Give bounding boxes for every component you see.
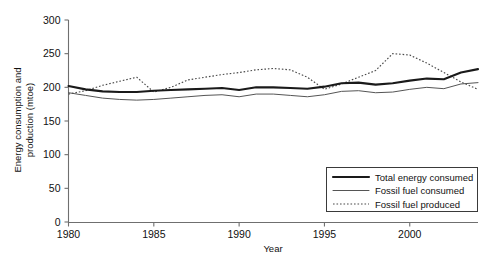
legend-item-label: Fossil fuel produced [375,199,460,210]
chart-container: 050100150200250300 19801985199019952000 … [0,0,482,266]
y-tick-label: 50 [49,182,61,194]
x-tick-label: 1990 [227,228,251,240]
y-axis-title-line-1: Energy consumption and [12,67,23,172]
y-tick-label: 250 [43,47,61,59]
y-axis-title-line-2: production (mtoe) [24,83,35,157]
legend-item-label: Total energy consumed [375,172,473,183]
y-axis: 050100150200250300 [43,14,69,228]
y-tick-label: 150 [43,115,61,127]
y-tick-label: 300 [43,14,61,26]
x-tick-label: 1980 [57,228,81,240]
y-tick-label: 0 [55,216,61,228]
x-axis: 19801985199019952000 [57,222,478,240]
y-axis-tick-marks [65,20,69,222]
y-tick-label: 100 [43,148,61,160]
legend-item-label: Fossil fuel consumed [375,185,464,196]
x-tick-label: 1995 [313,228,337,240]
x-tick-label: 2000 [398,228,422,240]
y-tick-label: 200 [43,81,61,93]
legend-entries: Total energy consumedFossil fuel consume… [333,172,473,210]
x-axis-title: Year [263,243,282,254]
x-tick-label: 1985 [142,228,166,240]
line-chart: 050100150200250300 19801985199019952000 … [0,0,482,266]
x-axis-tick-labels: 19801985199019952000 [57,228,422,240]
y-axis-tick-labels: 050100150200250300 [43,14,61,228]
legend: Total energy consumedFossil fuel consume… [327,168,478,212]
